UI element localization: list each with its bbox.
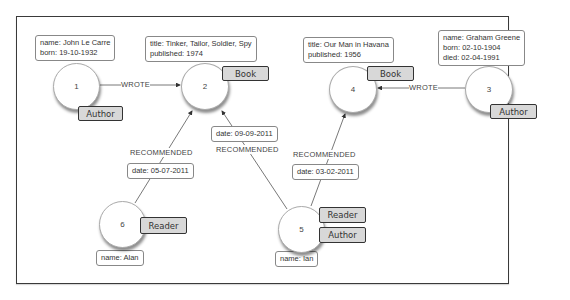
edge-label-wrote-1-2: WROTE	[121, 80, 150, 89]
edge-prop-6-2: date: 05-07-2011	[127, 163, 194, 179]
edge-label-recommended-5-2: RECOMMENDED	[216, 145, 279, 154]
node-2-label-book: Book	[222, 66, 269, 81]
edge-recommended-6-2	[135, 111, 192, 203]
node-6-properties: name: Alan	[96, 250, 144, 266]
edge-recommended-5-4	[311, 114, 345, 206]
node-1-properties: name: John Le Carre born: 19-10-1932	[35, 35, 115, 61]
node-1-label-author: Author	[78, 106, 123, 121]
node-3-properties: name: Graham Greene born: 02-10-1904 die…	[438, 30, 525, 66]
node-5-properties: name: Ian	[275, 251, 318, 267]
edge-prop-5-4: date: 03-02-2011	[292, 164, 359, 180]
node-5-label-author: Author	[319, 227, 366, 243]
node-6-label-reader: Reader	[140, 217, 187, 234]
node-4-properties: title: Our Man in Havana published: 1956	[303, 37, 394, 63]
node-5-label-reader: Reader	[319, 207, 366, 223]
edge-prop-5-2: date: 09-09-2011	[211, 126, 278, 142]
node-6[interactable]: 6	[99, 201, 146, 248]
node-5[interactable]: 5	[278, 206, 325, 253]
node-3-label-author: Author	[490, 104, 537, 119]
edge-label-wrote-3-4: WROTE	[409, 83, 438, 92]
node-4-label-book: Book	[367, 66, 414, 81]
node-1[interactable]: 1	[53, 63, 100, 110]
node-2-properties: title: Tinker, Tailor, Soldier, Spy publ…	[145, 36, 257, 62]
edge-label-recommended-5-4: RECOMMENDED	[293, 150, 356, 159]
edge-label-recommended-6-2: RECOMMENDED	[130, 148, 193, 157]
